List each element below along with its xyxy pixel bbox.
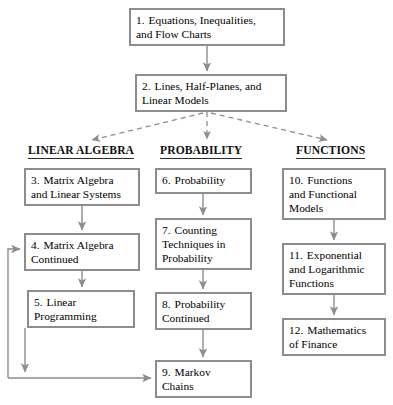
chapter-title-line-2: Linear Models	[142, 93, 281, 107]
chapter-number: 7.	[162, 224, 171, 236]
chapter-number: 5.	[34, 296, 43, 308]
arrow-loop-into-ch4	[8, 249, 20, 378]
chapter-node-2[interactable]: 2.Lines, Half-Planes, and Linear Models	[135, 74, 287, 112]
chapter-title-line-1: Linear	[47, 296, 77, 308]
section-heading-linear-algebra: LINEAR ALGEBRA	[28, 144, 134, 159]
chapter-title-line-1: Probability	[175, 298, 226, 310]
chapter-node-7[interactable]: 7.Counting Techniques in Probability	[155, 218, 252, 270]
chapter-title-line-1: Markov	[175, 366, 211, 378]
chapter-title-line-2: and Linear Systems	[31, 187, 134, 201]
chapter-node-3[interactable]: 3.Matrix Algebra and Linear Systems	[24, 168, 140, 206]
chapter-number: 10.	[289, 174, 303, 186]
section-heading-probability: PROBABILITY	[160, 144, 242, 159]
arrow-ch2-to-linear-algebra	[92, 113, 203, 140]
chapter-node-5[interactable]: 5.Linear Programming	[27, 290, 135, 328]
chapter-title-line-1: Matrix Algebra	[44, 239, 114, 251]
chapter-title-line-2: Chains	[162, 379, 246, 393]
chapter-number: 6.	[162, 174, 171, 186]
chapter-title-line-1: Matrix Algebra	[44, 174, 114, 186]
chapter-node-11[interactable]: 11.Exponential and Logarithmic Functions	[282, 243, 386, 295]
arrow-ch2-to-functions	[211, 113, 327, 140]
chapter-number: 11.	[289, 249, 303, 261]
chapter-node-6[interactable]: 6.Probability	[155, 168, 252, 194]
chapter-number: 12.	[289, 324, 303, 336]
chapter-title-line-2: Programming	[34, 309, 129, 323]
chapter-node-10[interactable]: 10.Functions and Functional Models	[282, 168, 386, 220]
chapter-title-line-2: Techniques in	[162, 237, 246, 251]
chapter-title-line-2: Continued	[162, 311, 246, 325]
chapter-number: 8.	[162, 298, 171, 310]
chapter-title-line-1: Probability	[175, 174, 226, 186]
chapter-title-line-2: and Flow Charts	[136, 27, 279, 41]
chapter-title-line-1: Equations, Inequalities,	[149, 14, 256, 26]
chapter-node-9[interactable]: 9.Markov Chains	[155, 360, 252, 398]
chapter-node-8[interactable]: 8.Probability Continued	[155, 292, 252, 330]
chapter-title-line-3: Probability	[162, 251, 246, 265]
chapter-number: 2.	[142, 80, 151, 92]
chapter-number: 9.	[162, 366, 171, 378]
chapter-title-line-1: Lines, Half-Planes, and	[155, 80, 262, 92]
section-heading-functions: FUNCTIONS	[296, 144, 365, 159]
flowchart-diagram: LINEAR ALGEBRA PROBABILITY FUNCTIONS 1.E…	[0, 0, 393, 405]
chapter-title-line-1: Mathematics	[307, 324, 366, 336]
chapter-node-4[interactable]: 4.Matrix Algebra Continued	[24, 233, 140, 271]
chapter-title-line-3: Functions	[289, 276, 380, 290]
chapter-title-line-2: Continued	[31, 252, 134, 266]
chapter-number: 1.	[136, 14, 145, 26]
chapter-title-line-3: Models	[289, 201, 380, 215]
chapter-title-line-2: and Logarithmic	[289, 262, 380, 276]
chapter-title-line-1: Functions	[307, 174, 352, 186]
chapter-title-line-2: and Functional	[289, 187, 380, 201]
chapter-node-1[interactable]: 1.Equations, Inequalities, and Flow Char…	[129, 8, 285, 46]
chapter-title-line-1: Counting	[175, 224, 217, 236]
chapter-number: 4.	[31, 239, 40, 251]
chapter-node-12[interactable]: 12.Mathematics of Finance	[282, 318, 386, 356]
chapter-number: 3.	[31, 174, 40, 186]
chapter-title-line-1: Exponential	[307, 249, 362, 261]
chapter-title-line-2: of Finance	[289, 337, 380, 351]
